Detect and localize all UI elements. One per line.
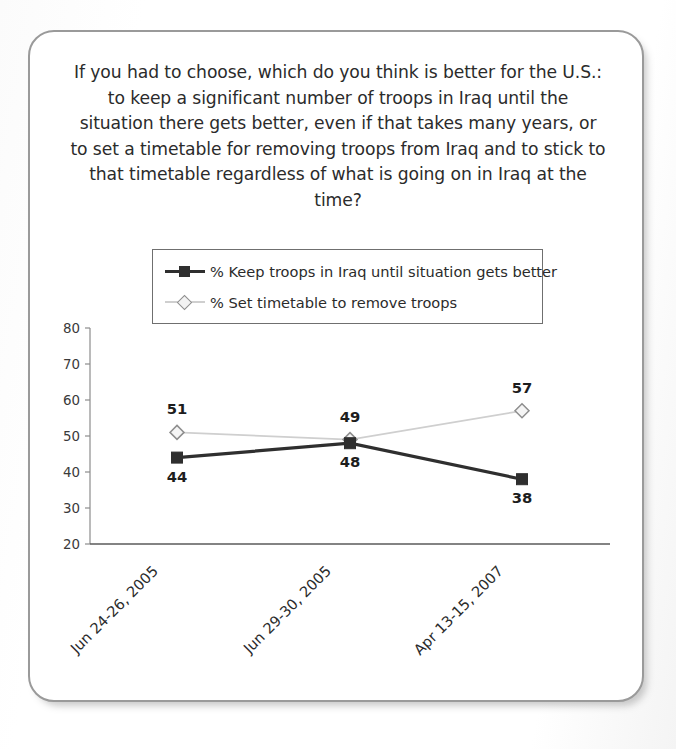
data-point-label: 51 (167, 400, 188, 417)
y-tick-label: 30 (63, 501, 80, 516)
data-labels-group: 514957444838 (167, 379, 533, 506)
data-marker-diamond (170, 425, 184, 439)
data-series-group (170, 404, 529, 485)
series-line-set-timetable (177, 411, 522, 440)
legend-label-set-timetable: % Set timetable to remove troops (210, 294, 457, 311)
legend-marker-diamond-icon (165, 294, 205, 310)
data-marker-diamond (343, 433, 357, 447)
x-tick-label: Apr 13-15, 2007 (410, 562, 506, 658)
data-point-label: 44 (167, 468, 188, 485)
data-point-label: 57 (512, 379, 533, 396)
y-tick-label: 20 (63, 537, 80, 552)
legend-marker-square-icon (165, 263, 205, 279)
x-tick-label: Jun 29-30, 2005 (239, 562, 334, 657)
y-tick-label: 40 (63, 465, 80, 480)
data-marker-square (517, 474, 528, 485)
data-marker-square (172, 452, 183, 463)
data-point-label: 38 (512, 489, 533, 506)
series-line-keep-troops (177, 443, 522, 479)
data-marker-square (345, 438, 356, 449)
legend-item-keep-troops[interactable]: % Keep troops in Iraq until situation ge… (165, 260, 557, 282)
chart-legend: % Keep troops in Iraq until situation ge… (152, 249, 543, 324)
y-tick-label: 50 (63, 429, 80, 444)
x-tick-label: Jun 24-26, 2005 (66, 562, 161, 657)
y-axis: 20304050607080 (63, 321, 90, 552)
y-tick-label: 70 (63, 357, 80, 372)
legend-label-keep-troops: % Keep troops in Iraq until situation ge… (210, 263, 557, 280)
x-tick-labels: Jun 24-26, 2005Jun 29-30, 2005Apr 13-15,… (66, 562, 506, 658)
chart-card: If you had to choose, which do you think… (28, 30, 644, 702)
page-title: If you had to choose, which do you think… (70, 60, 606, 214)
data-point-label: 49 (340, 408, 361, 425)
y-tick-label: 80 (63, 321, 80, 336)
data-point-label: 48 (340, 453, 361, 470)
y-tick-label: 60 (63, 393, 80, 408)
legend-item-set-timetable[interactable]: % Set timetable to remove troops (165, 291, 457, 313)
data-marker-diamond (515, 404, 529, 418)
